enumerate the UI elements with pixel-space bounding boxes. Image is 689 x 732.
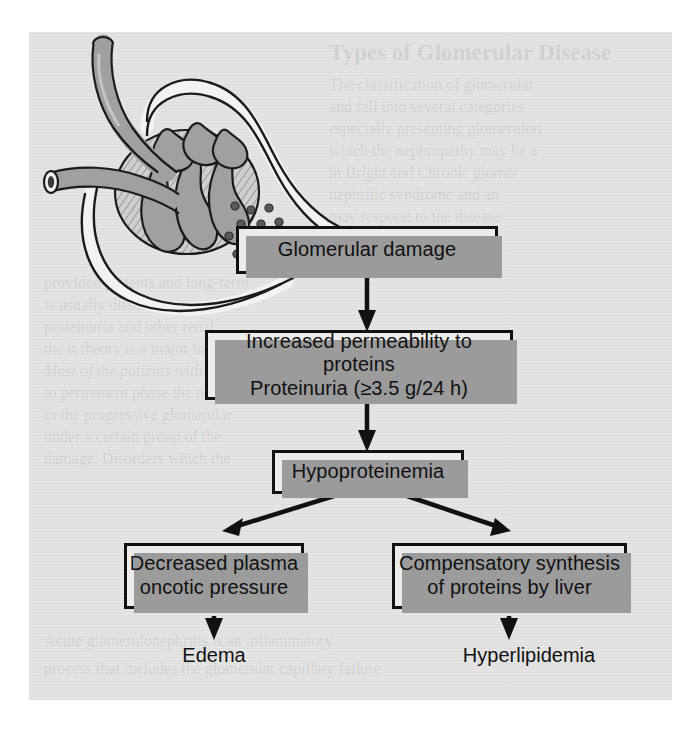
flow-box-label-group: Compensatory synthesis of proteins by li… [399,552,620,599]
flow-box-label-line1: Compensatory synthesis [399,552,620,574]
arrowhead-hypoproteinemia-to-synthesis [490,518,511,536]
flow-box-compensatory-synthesis: Compensatory synthesis of proteins by li… [392,543,627,609]
flow-box-label-line1: Increased permeability to proteins [246,330,472,376]
showthrough-line: under a certain group of the [44,428,221,446]
flow-box-hypoproteinemia: Hypoproteinemia [272,450,464,494]
afferent-arteriole-tip [93,37,113,44]
arrowhead-hypoproteinemia-to-oncotic [222,518,243,536]
showthrough-line: in the progressive glomerular [44,406,232,424]
showthrough-line: Most of the patients with [44,362,202,380]
flow-box-glomerular-damage: Glomerular damage [236,226,498,274]
efferent-arteriole-lumen-inner [48,176,54,188]
terminal-label-edema: Edema [154,644,274,667]
showthrough-line: The classification of glomerular [329,76,534,94]
showthrough-line: especially presenting glomerulon [329,120,541,138]
flow-box-label-group: Decreased plasma oncotic pressure [130,552,298,599]
protein-particle [265,204,273,212]
figure-panel: Types of Glomerular Disease The classifi… [29,32,672,700]
arrowhead-permeability-to-hypoproteinemia [358,430,376,452]
protein-particle [231,202,239,210]
arrow-hypoproteinemia-to-oncotic [234,496,334,527]
flow-box-label-line2: Proteinuria (≥3.5 g/24 h) [250,377,468,399]
arrowhead-synthesis-to-hyperlipidemia [500,618,518,640]
flow-box-increased-permeability: Increased permeability to proteins Prote… [205,330,513,400]
glomerulus-illustration [29,32,359,322]
arrow-hypoproteinemia-to-synthesis [407,496,499,527]
showthrough-line: damage. Disorders which the [44,450,231,468]
protein-particle [275,218,283,226]
protein-particle [225,232,233,240]
flow-box-label-line2: of proteins by liver [427,576,591,598]
flow-box-label-line2: oncotic pressure [140,576,288,598]
terminal-label-hyperlipidemia: Hyperlipidemia [429,644,629,667]
protein-particle [247,206,255,214]
showthrough-line: which the nephropathy may be a [329,142,537,160]
flow-box-decreased-oncotic-pressure: Decreased plasma oncotic pressure [124,543,304,609]
flow-box-label: Glomerular damage [278,238,456,262]
showthrough-heading: Types of Glomerular Disease [329,40,611,66]
flow-box-label-group: Increased permeability to proteins Prote… [208,330,510,401]
flow-box-label-line1: Decreased plasma [130,552,298,574]
showthrough-line: the it theory is a major in [44,340,205,358]
flow-box-label: Hypoproteinemia [292,460,445,484]
